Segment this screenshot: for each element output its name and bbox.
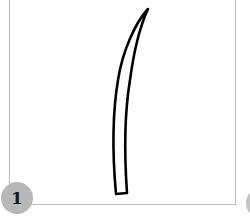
blade-outline-drawing: [0, 0, 250, 219]
step-number: 1: [11, 188, 23, 208]
step-number-badge: 1: [1, 182, 33, 214]
